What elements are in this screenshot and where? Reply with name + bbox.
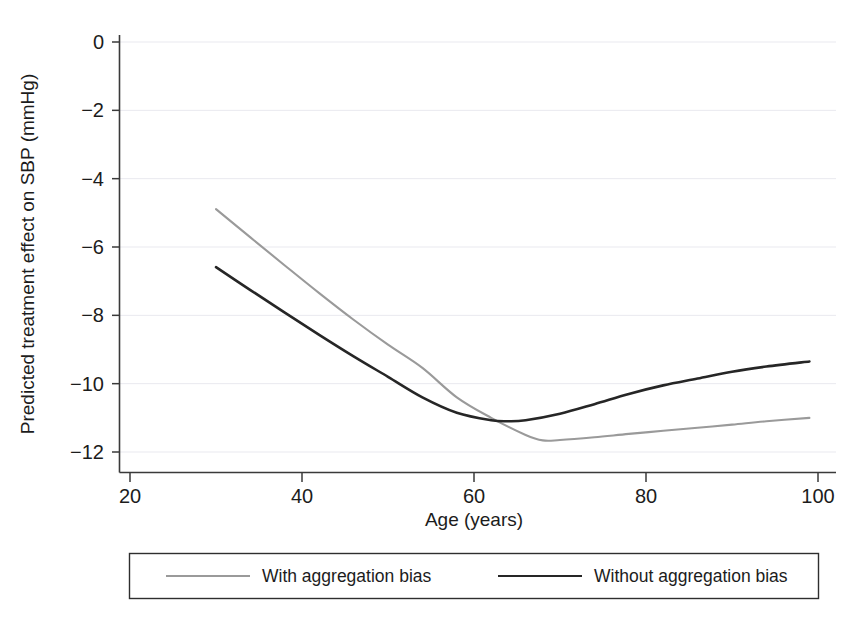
x-tick-label: 40 — [291, 485, 313, 507]
chart-legend: With aggregation biasWithout aggregation… — [130, 554, 819, 599]
x-tick-label: 80 — [635, 485, 657, 507]
x-tick-label: 100 — [801, 485, 834, 507]
y-tick-label: −10 — [70, 373, 104, 395]
y-tick-label: −2 — [81, 99, 104, 121]
x-tick-label: 60 — [463, 485, 485, 507]
y-axis-title: Predicted treatment effect on SBP (mmHg) — [17, 74, 38, 434]
figure-background — [0, 0, 862, 626]
chart-figure: 0−2−4−6−8−10−12 20406080100 Predicted tr… — [0, 0, 862, 626]
y-tick-label: 0 — [93, 31, 104, 53]
legend-label-2: Without aggregation bias — [594, 566, 788, 586]
x-axis-title: Age (years) — [425, 509, 523, 530]
x-tick-label: 20 — [119, 485, 141, 507]
y-tick-label: −8 — [81, 304, 104, 326]
y-tick-label: −4 — [81, 168, 104, 190]
legend-label-1: With aggregation bias — [262, 566, 432, 586]
y-tick-label: −12 — [70, 441, 104, 463]
y-tick-label: −6 — [81, 236, 104, 258]
